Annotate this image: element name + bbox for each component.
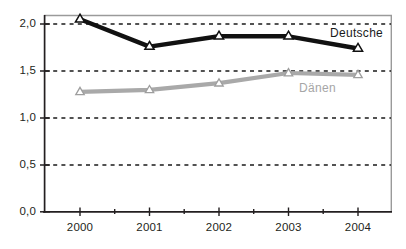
- x-axis-label-2002: 2002: [198, 221, 240, 233]
- x-axis-label-2004: 2004: [337, 221, 379, 233]
- series-annotation-deutsche: Deutsche: [330, 26, 383, 40]
- chart-container: 2,0 1,5 1,0 0,5 0,0 2000 2001 2002 2003 …: [0, 0, 406, 249]
- x-axis-label-2003: 2003: [268, 221, 310, 233]
- y-axis-label-1-0: 1,0: [2, 111, 36, 123]
- x-axis-label-2000: 2000: [59, 221, 101, 233]
- y-axis-label-1-5: 1,5: [2, 64, 36, 76]
- y-axis-label-0-5: 0,5: [2, 158, 36, 170]
- series-annotation-daenen: Dänen: [299, 81, 336, 95]
- y-axis-label-0-0: 0,0: [2, 205, 36, 217]
- x-axis-label-2001: 2001: [129, 221, 171, 233]
- y-axis-label-2-0: 2,0: [2, 17, 36, 29]
